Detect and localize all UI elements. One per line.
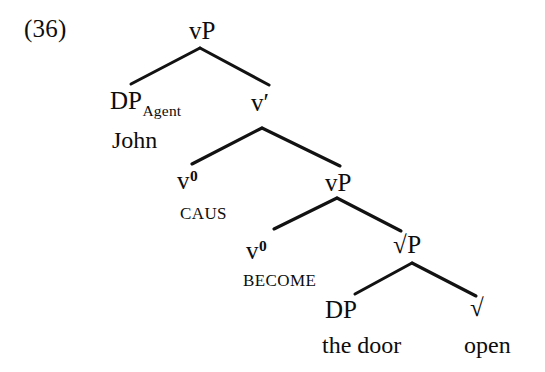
branch-vp-root-to-vbar	[200, 48, 269, 85]
node-v0-become-superscript: 0	[259, 237, 267, 254]
node-v0-become-label: v	[246, 237, 259, 264]
radical-icon: √	[393, 231, 407, 258]
branch-rootp-to-root-open	[412, 263, 476, 296]
terminal-open: open	[464, 333, 511, 357]
tree-branch-layer	[0, 0, 545, 372]
node-dp-agent: DPAgent	[110, 88, 181, 113]
radical-icon: √	[470, 294, 484, 321]
node-v0-caus-label: v	[177, 167, 190, 194]
head-gloss-caus: CAUS	[180, 205, 227, 222]
terminal-the-door: the door	[322, 333, 401, 357]
branch-vp-inner-to-v0-become	[274, 198, 337, 229]
node-vp-root: vP	[189, 18, 215, 43]
head-gloss-become: BECOME	[243, 272, 316, 289]
node-v0-become: v0	[246, 238, 266, 263]
node-v0-caus: v0	[177, 168, 197, 193]
node-dp-agent-label: DP	[110, 87, 142, 114]
node-vp-inner: vP	[325, 170, 351, 195]
branch-vbar-to-vp-inner	[262, 128, 340, 166]
node-dp-agent-subscript: Agent	[142, 102, 181, 119]
branch-vbar-to-v0-caus	[192, 128, 262, 164]
node-v0-caus-superscript: 0	[190, 167, 198, 184]
branch-vp-inner-to-rootp	[337, 198, 401, 231]
node-v-bar: v′	[251, 90, 269, 115]
node-root-phrase-label: P	[407, 231, 421, 258]
node-root-phrase: √P	[393, 232, 421, 257]
node-root-head: √	[470, 295, 484, 320]
branch-rootp-to-dp-theme	[355, 263, 412, 294]
node-dp-theme: DP	[325, 297, 357, 322]
branch-vp-root-to-dp-agent	[131, 48, 200, 84]
example-number: (36)	[24, 16, 66, 41]
terminal-john: John	[112, 128, 157, 152]
syntax-tree-figure: (36) vP DPAgent John v′ v0 CAUS vP v0 BE…	[0, 0, 545, 372]
